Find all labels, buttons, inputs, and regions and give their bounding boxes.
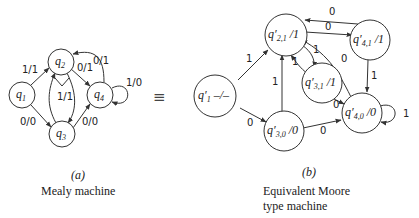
caption-b-line1: Equivalent Moore [263, 184, 350, 198]
state-q3: q3 [49, 121, 75, 147]
mealy-machine-diagram: 1/1 0/0 0/1 0/1 1/1 0/0 1/0 q1 q2 q3 q4 [9, 49, 142, 147]
moore-machine-diagram: 1 0 0 0 1 1 0 1 0 1 0 1 q′1 –/– q′2,1 /1… [194, 6, 409, 151]
label-q1-q2: 1/1 [22, 64, 38, 75]
state-q1-prime: q′1 –/– [194, 75, 236, 117]
edge-q41-q21 [305, 20, 358, 24]
label-q3-q4: 0/0 [82, 116, 98, 127]
state-q1: q1 [9, 82, 35, 108]
edge-q4-q4 [112, 86, 128, 103]
edge-q21-q41 [305, 32, 352, 35]
caption-a: Mealy machine [41, 184, 115, 198]
edge-q3-q2 [49, 73, 56, 123]
label-q1-q3: 0/0 [20, 116, 36, 127]
label-q2-q4: 0/1 [77, 62, 93, 73]
label-q30-q21: 1 [272, 76, 278, 87]
state-q21-prime: q′2,1 /1 [265, 14, 307, 56]
edge-q3-q2-inner [55, 78, 69, 86]
state-q30-prime: q′3,0 /0 [264, 111, 304, 151]
label-q4-q4: 1/0 [126, 77, 142, 88]
label-q30-q40: 0 [320, 125, 326, 136]
equivalence-symbol: ≡ [153, 88, 166, 106]
state-q31-prime: q′3,1 /1 [302, 63, 342, 103]
label-q2-q3: 1/1 [57, 91, 73, 102]
label-q40-q40: 1 [403, 108, 409, 119]
state-q4: q4 [87, 82, 113, 108]
label-q1p-q21: 1 [246, 53, 252, 64]
edge-q41-q40 [367, 60, 368, 92]
svg-text:q′1 –/–: q′1 –/– [198, 88, 230, 104]
label-q40-q21: 0 [341, 53, 347, 64]
label-q21-q31: 1 [313, 44, 319, 55]
caption-tag-b: (b) [302, 165, 316, 179]
edge-q1p-q21 [238, 50, 268, 80]
label-q41-q21: 0 [329, 6, 335, 17]
caption-b-line2: type machine [263, 199, 327, 213]
label-q21-q41: 0 [325, 21, 331, 32]
label-q31-q40: 0 [333, 99, 339, 110]
label-q4-q2: 0/1 [93, 55, 109, 66]
state-q40-prime: q′4,0 /0 [342, 93, 382, 133]
label-q1p-q30: 0 [247, 117, 253, 128]
label-q31-q21: 1 [292, 56, 298, 67]
label-q41-q40: 1 [371, 70, 377, 81]
state-q2: q2 [48, 49, 74, 75]
caption-tag-a: (a) [71, 168, 85, 182]
state-q41-prime: q′4,1 /1 [350, 20, 390, 60]
